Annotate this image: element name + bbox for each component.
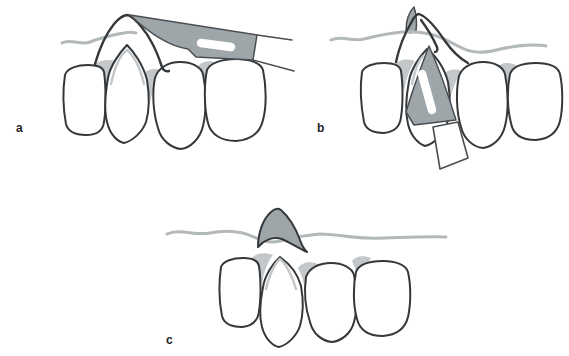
tooth-outline [457, 62, 508, 148]
tooth-outline [361, 63, 403, 133]
frenectomy-diagram [0, 0, 569, 356]
panel-b-illustration [331, 7, 562, 169]
tooth-outline [105, 45, 149, 143]
tooth-outline [508, 63, 562, 140]
tooth-outline [305, 263, 357, 342]
panel-c-illustration [167, 209, 446, 347]
tooth-outline [153, 62, 205, 149]
panel-a-illustration [62, 15, 294, 149]
panel-label-b: b [317, 122, 324, 134]
tooth-outline [220, 258, 261, 327]
blade-slot [201, 43, 231, 47]
mucogingival-line [167, 231, 446, 242]
tooth-outline [205, 59, 266, 141]
mucogingival-line [62, 32, 136, 43]
panel-label-a: a [16, 122, 23, 134]
scalpel-handle [257, 35, 292, 40]
excised-frenum [258, 209, 307, 252]
frenectomy-figure: a b c [0, 0, 569, 356]
panel-label-c: c [166, 334, 173, 346]
tooth-outline [64, 65, 106, 135]
tooth-outline [260, 257, 303, 347]
tooth-outline [354, 261, 410, 336]
